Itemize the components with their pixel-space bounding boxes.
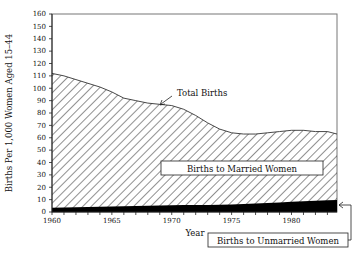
y-tick-label: 100 <box>33 85 46 93</box>
y-tick-label: 160 <box>33 10 46 18</box>
y-tick-label: 140 <box>33 35 46 43</box>
married-label: Births to Married Women <box>187 164 297 174</box>
x-axis: 19601965197019751980 <box>43 212 337 225</box>
y-tick-label: 50 <box>37 146 46 154</box>
y-axis-title: Births Per 1,000 Women Aged 15–44 <box>4 34 14 192</box>
x-tick-label: 1960 <box>43 217 61 225</box>
y-tick-label: 20 <box>37 184 46 192</box>
y-tick-label: 90 <box>37 97 46 105</box>
total-births-label: Total Births <box>177 88 227 98</box>
y-tick-label: 110 <box>33 72 46 80</box>
y-tick-label: 80 <box>37 109 46 117</box>
x-tick-label: 1965 <box>103 217 121 225</box>
y-tick-label: 40 <box>37 159 46 167</box>
y-tick-label: 130 <box>33 47 46 55</box>
y-axis: 0102030405060708090100110120130140150160 <box>33 10 52 216</box>
x-tick-label: 1980 <box>283 217 301 225</box>
x-tick-label: 1975 <box>223 217 241 225</box>
y-tick-label: 120 <box>33 60 46 68</box>
x-axis-title: Year <box>184 228 205 238</box>
unmarried-label: Births to Unmarried Women <box>217 236 339 246</box>
total-births-arrow-icon <box>161 96 172 104</box>
chart: 0102030405060708090100110120130140150160… <box>0 0 355 256</box>
y-tick-label: 10 <box>37 196 46 204</box>
y-tick-label: 60 <box>37 134 46 142</box>
y-tick-label: 150 <box>33 23 46 31</box>
y-tick-label: 30 <box>37 171 46 179</box>
x-tick-label: 1970 <box>163 217 181 225</box>
y-tick-label: 70 <box>37 122 46 130</box>
y-tick-label: 0 <box>42 208 46 216</box>
